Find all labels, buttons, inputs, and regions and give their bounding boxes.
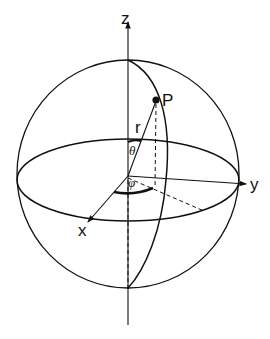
x-axis (88, 176, 128, 222)
point-p-marker (152, 96, 159, 103)
z-label: z (121, 9, 130, 28)
theta-label: θ (129, 143, 136, 158)
phi-label: φ (128, 175, 135, 190)
theta-arc (128, 140, 141, 142)
y-axis (128, 176, 246, 184)
projection-vertical (155, 104, 156, 188)
x-label: x (78, 221, 87, 240)
point-p-label: P (162, 91, 173, 110)
y-label: y (250, 175, 259, 194)
spherical-coordinates-diagram: z y x P r θ φ (0, 0, 270, 339)
r-label: r (135, 118, 141, 137)
